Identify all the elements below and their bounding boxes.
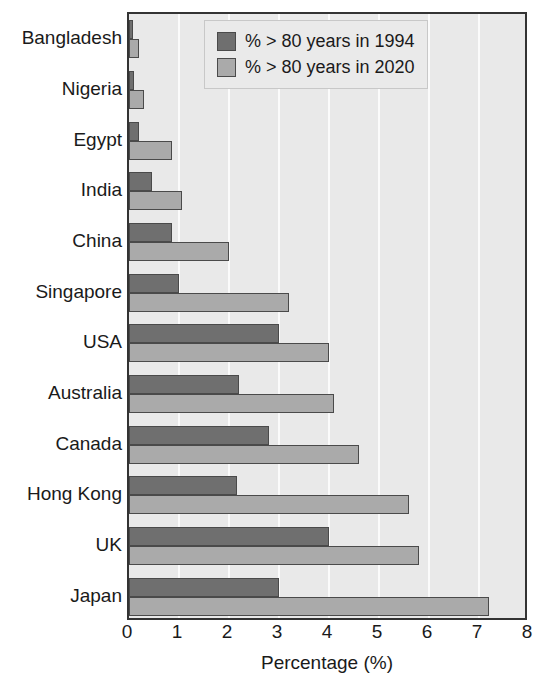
category-label: Egypt bbox=[0, 130, 122, 149]
bar bbox=[129, 274, 179, 293]
gridline bbox=[478, 14, 480, 618]
category-label: China bbox=[0, 231, 122, 250]
bar bbox=[129, 476, 237, 495]
bar bbox=[129, 191, 182, 210]
bar bbox=[129, 527, 329, 546]
x-tick-label: 0 bbox=[122, 622, 133, 641]
x-tick-label: 3 bbox=[272, 622, 283, 641]
x-tick-label: 6 bbox=[422, 622, 433, 641]
gridline bbox=[428, 14, 430, 618]
bar bbox=[129, 578, 279, 597]
x-tick-label: 5 bbox=[372, 622, 383, 641]
x-tick-label: 4 bbox=[322, 622, 333, 641]
category-label: Nigeria bbox=[0, 79, 122, 98]
x-tick-label: 7 bbox=[472, 622, 483, 641]
gridline bbox=[378, 14, 380, 618]
category-label: Japan bbox=[0, 586, 122, 605]
bar bbox=[129, 343, 329, 362]
category-axis: BangladeshNigeriaEgyptIndiaChinaSingapor… bbox=[0, 12, 122, 620]
x-axis-title: Percentage (%) bbox=[127, 653, 527, 672]
bar bbox=[129, 39, 139, 58]
x-tick-label: 1 bbox=[172, 622, 183, 641]
bar bbox=[129, 426, 269, 445]
bar bbox=[129, 546, 419, 565]
legend-swatch-icon bbox=[217, 32, 236, 51]
bar bbox=[129, 597, 489, 616]
legend-label: % > 80 years in 2020 bbox=[245, 58, 415, 76]
bar bbox=[129, 90, 144, 109]
bar bbox=[129, 445, 359, 464]
value-axis: 012345678 bbox=[127, 622, 527, 650]
category-label: Singapore bbox=[0, 282, 122, 301]
category-label: India bbox=[0, 180, 122, 199]
category-label: Hong Kong bbox=[0, 484, 122, 503]
bar-chart-figure: BangladeshNigeriaEgyptIndiaChinaSingapor… bbox=[0, 0, 539, 690]
bar bbox=[129, 324, 279, 343]
bar bbox=[129, 242, 229, 261]
bar bbox=[129, 172, 152, 191]
bar bbox=[129, 375, 239, 394]
plot-area bbox=[127, 12, 527, 620]
x-tick-label: 2 bbox=[222, 622, 233, 641]
legend-item: % > 80 years in 1994 bbox=[217, 28, 415, 54]
category-label: Bangladesh bbox=[0, 28, 122, 47]
category-label: USA bbox=[0, 332, 122, 351]
bar bbox=[129, 71, 134, 90]
bar bbox=[129, 223, 172, 242]
bar bbox=[129, 122, 139, 141]
legend-label: % > 80 years in 1994 bbox=[245, 32, 415, 50]
bar bbox=[129, 141, 172, 160]
legend-swatch-icon bbox=[217, 58, 236, 77]
bar bbox=[129, 20, 133, 39]
x-tick-label: 8 bbox=[522, 622, 533, 641]
category-label: UK bbox=[0, 535, 122, 554]
bar bbox=[129, 293, 289, 312]
bar bbox=[129, 495, 409, 514]
bar bbox=[129, 394, 334, 413]
legend-item: % > 80 years in 2020 bbox=[217, 54, 415, 80]
chart-legend: % > 80 years in 1994% > 80 years in 2020 bbox=[204, 20, 428, 89]
category-label: Australia bbox=[0, 383, 122, 402]
category-label: Canada bbox=[0, 434, 122, 453]
